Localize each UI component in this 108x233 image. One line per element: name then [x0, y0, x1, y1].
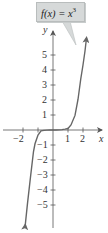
y-tick-label-neg3: −3 — [37, 170, 48, 180]
y-tick-label-neg2: −2 — [37, 155, 48, 165]
y-tick-label-2: 2 — [42, 95, 47, 105]
y-axis-label: y — [43, 25, 47, 35]
exponent: 3 — [73, 6, 77, 14]
y-tick-label-4: 4 — [42, 65, 47, 75]
cubic-curve — [25, 38, 86, 225]
x-tick-label-1: 1 — [65, 134, 70, 144]
y-tick-label-neg1: −1 — [37, 140, 48, 150]
x-tick-label-neg2: −2 — [13, 134, 24, 144]
cubic-function-graph — [0, 0, 108, 233]
x-axis-label: x — [99, 134, 103, 144]
y-tick-label-neg4: −4 — [37, 185, 48, 195]
y-tick-label-neg5: −5 — [37, 200, 48, 210]
x-tick-label-2: 2 — [80, 134, 85, 144]
y-tick-label-3: 3 — [42, 80, 47, 90]
y-tick-label-5: 5 — [42, 50, 47, 60]
y-tick-label-1: 1 — [42, 110, 47, 120]
function-label: f(x) = x3 — [41, 6, 76, 19]
callout-pointer — [62, 21, 76, 45]
function-label-callout: f(x) = x3 — [36, 2, 85, 22]
